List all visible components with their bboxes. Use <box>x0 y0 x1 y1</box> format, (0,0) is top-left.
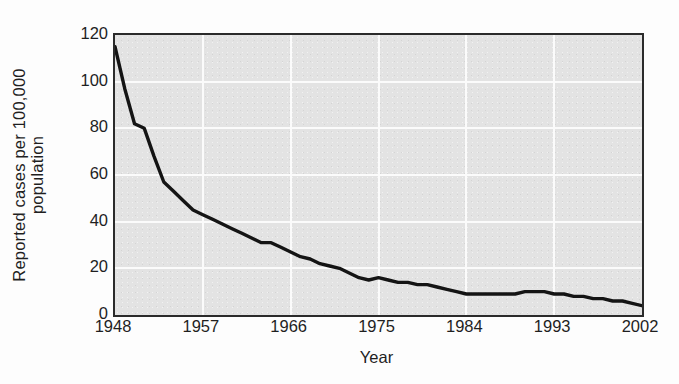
y-tick-label-40: 40 <box>64 211 108 228</box>
x-tick-label-1993: 1993 <box>534 318 571 335</box>
x-axis-tick-labels: 1948195719661975198419932002 <box>0 318 679 344</box>
y-axis-title: Reported cases per 100,000 population <box>0 30 56 320</box>
y-tick-label-80: 80 <box>64 118 108 135</box>
line-series-svg <box>115 35 642 315</box>
x-axis-title: Year <box>113 348 640 367</box>
chart-figure: Reported cases per 100,000 population 02… <box>0 0 679 384</box>
y-tick-label-60: 60 <box>64 165 108 182</box>
x-tick-label-1957: 1957 <box>182 318 219 335</box>
y-tick-label-120: 120 <box>64 25 108 42</box>
x-tick-label-1948: 1948 <box>95 318 132 335</box>
y-axis-title-text: Reported cases per 100,000 population <box>10 68 47 281</box>
x-tick-label-2002: 2002 <box>622 318 659 335</box>
y-axis-title-line-1: Reported cases per 100,000 <box>10 68 28 281</box>
x-tick-label-1966: 1966 <box>270 318 307 335</box>
y-tick-label-20: 20 <box>64 258 108 275</box>
y-tick-label-100: 100 <box>64 71 108 88</box>
y-axis-title-line-2: population <box>28 68 46 281</box>
plot-area <box>113 33 644 317</box>
line-series-path <box>115 47 642 306</box>
x-tick-label-1975: 1975 <box>358 318 395 335</box>
x-tick-label-1984: 1984 <box>446 318 483 335</box>
